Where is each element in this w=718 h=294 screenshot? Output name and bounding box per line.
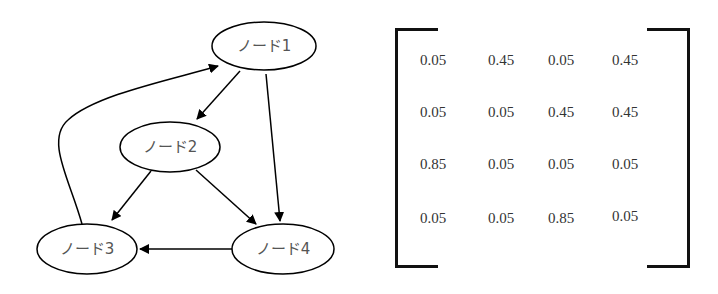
matrix-cell-r4c2: 0.05 <box>488 210 514 227</box>
node-2: ノード2 <box>120 122 220 172</box>
node-3-label: ノード3 <box>60 240 115 258</box>
matrix-cell-r2c1: 0.05 <box>420 104 446 121</box>
node-4: ノード4 <box>232 224 334 274</box>
right-bracket <box>647 28 690 268</box>
edge-1-to-2 <box>197 71 240 119</box>
matrix-cell-r4c1: 0.05 <box>420 210 446 227</box>
matrix-cell-r3c1: 0.85 <box>420 156 446 173</box>
node-3: ノード3 <box>37 224 137 274</box>
matrix-cell-r4c4: 0.05 <box>612 208 638 225</box>
matrix-cell-r3c3: 0.05 <box>548 156 574 173</box>
matrix-cell-r3c4: 0.05 <box>612 156 638 173</box>
matrix-cell-r3c2: 0.05 <box>488 156 514 173</box>
transition-matrix: 0.05 0.45 0.05 0.45 0.05 0.05 0.45 0.45 … <box>395 28 690 270</box>
node-1-label: ノード1 <box>237 37 292 55</box>
node-4-label: ノード4 <box>256 240 311 258</box>
matrix-cell-r2c4: 0.45 <box>612 104 638 121</box>
node-1: ノード1 <box>212 22 316 70</box>
matrix-cell-r1c3: 0.05 <box>548 52 574 69</box>
edge-2-to-4 <box>196 170 256 224</box>
edge-1-to-4 <box>266 74 280 221</box>
edge-2-to-3 <box>112 171 151 220</box>
matrix-cell-r4c3: 0.85 <box>548 210 574 227</box>
node-2-label: ノード2 <box>143 138 198 156</box>
matrix-cell-r2c3: 0.45 <box>548 104 574 121</box>
matrix-cell-r1c1: 0.05 <box>420 52 446 69</box>
matrix-cell-r1c4: 0.45 <box>612 52 638 69</box>
matrix-cell-r1c2: 0.45 <box>488 52 514 69</box>
matrix-cell-r2c2: 0.05 <box>488 104 514 121</box>
directed-graph: ノード1 ノード2 ノード3 ノード4 <box>0 0 370 294</box>
